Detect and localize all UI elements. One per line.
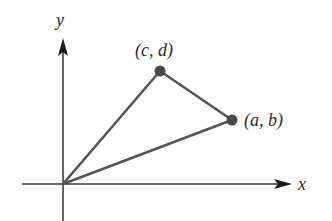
edge-origin-a: [63, 120, 232, 184]
edge-c-a: [160, 71, 232, 120]
point-c-marker: [155, 66, 166, 77]
point-c-label: (c, d): [135, 40, 173, 61]
point-a-label: (a, b): [244, 110, 283, 131]
y-axis: y: [54, 10, 68, 221]
point-a-marker: [227, 115, 238, 126]
point-a: (a, b): [227, 110, 284, 131]
y-axis-label: y: [54, 10, 64, 30]
point-c: (c, d): [135, 40, 173, 77]
triangle: [63, 71, 232, 184]
edge-origin-c: [63, 71, 160, 184]
triangle-diagram: x y (c, d) (a, b): [0, 0, 332, 221]
x-axis-label: x: [297, 174, 306, 194]
